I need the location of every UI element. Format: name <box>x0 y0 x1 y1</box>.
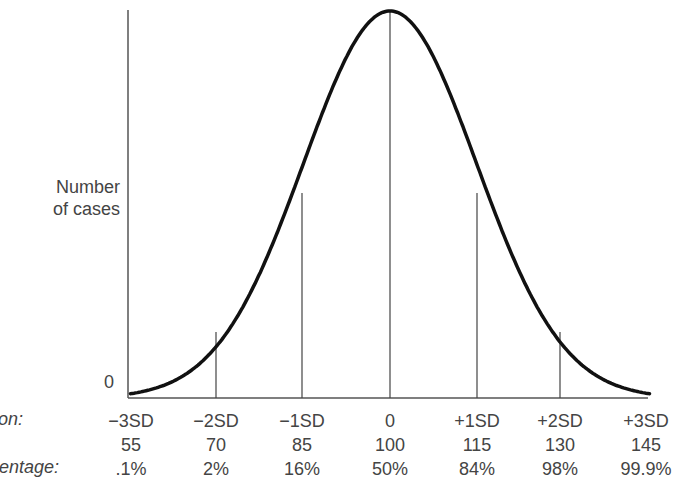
percentage-label: 16% <box>267 457 337 481</box>
y-zero-label: 0 <box>104 372 114 393</box>
row-label-percentage: centage: <box>0 457 59 478</box>
percentage-label: 99.9% <box>611 457 681 481</box>
percentage-label: 2% <box>181 457 251 481</box>
sd-label: +1SD <box>442 409 512 433</box>
sd-label: −3SD <box>96 409 166 433</box>
sd-label: −1SD <box>267 409 337 433</box>
tick-col-plus-2sd: +2SD 130 98% <box>525 409 595 481</box>
row-label-sd: ion: <box>0 409 23 430</box>
sd-label: −2SD <box>181 409 251 433</box>
percentage-label: 50% <box>355 457 425 481</box>
y-axis-label-line1: Number <box>53 176 120 198</box>
y-axis-label: Number of cases <box>53 176 120 220</box>
sd-label: 0 <box>355 409 425 433</box>
percentage-label: .1% <box>96 457 166 481</box>
score-label: 115 <box>442 433 512 457</box>
tick-col-plus-3sd: +3SD 145 99.9% <box>611 409 681 481</box>
tick-col-minus-3sd: −3SD 55 .1% <box>96 409 166 481</box>
tick-col-mean: 0 100 50% <box>355 409 425 481</box>
score-label: 145 <box>611 433 681 457</box>
tick-col-minus-1sd: −1SD 85 16% <box>267 409 337 481</box>
tick-col-plus-1sd: +1SD 115 84% <box>442 409 512 481</box>
percentage-label: 98% <box>525 457 595 481</box>
score-label: 130 <box>525 433 595 457</box>
percentage-label: 84% <box>442 457 512 481</box>
y-axis-label-line2: of cases <box>53 198 120 220</box>
tick-col-minus-2sd: −2SD 70 2% <box>181 409 251 481</box>
sd-markers <box>216 11 560 398</box>
sd-label: +2SD <box>525 409 595 433</box>
score-label: 100 <box>355 433 425 457</box>
score-label: 85 <box>267 433 337 457</box>
sd-label: +3SD <box>611 409 681 433</box>
score-label: 70 <box>181 433 251 457</box>
score-label: 55 <box>96 433 166 457</box>
